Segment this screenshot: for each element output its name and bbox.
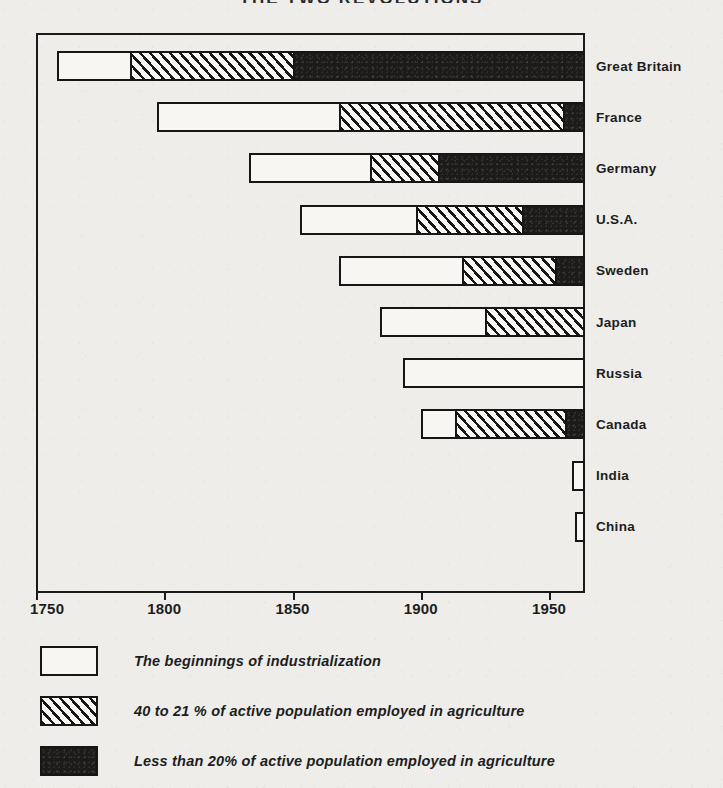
bar-china [575,512,585,542]
country-label: France [596,102,642,132]
country-label: Great Britain [596,51,682,81]
bar-segment-beginnings [405,360,583,386]
legend-swatch-white [40,646,98,676]
bar-segment-less-than-20-pct [565,411,583,437]
bar-france [157,102,585,132]
bar-russia [403,358,585,388]
country-label: U.S.A. [596,205,638,235]
country-label: India [596,461,629,491]
bar-sweden [339,256,585,286]
bar-segment-40-to-21-pct [485,309,583,335]
axis-tick [549,593,551,600]
legend-swatch-black [40,746,98,776]
bar-india [572,461,585,491]
bar-segment-40-to-21-pct [339,104,563,130]
bar-segment-less-than-20-pct [293,53,583,79]
bar-segment-40-to-21-pct [370,155,438,181]
bar-segment-beginnings [577,514,583,540]
bar-segment-beginnings [159,104,339,130]
bar-segment-beginnings [341,258,462,284]
bar-japan [380,307,585,337]
bar-germany [249,153,585,183]
bar-segment-40-to-21-pct [416,207,522,233]
bar-segment-beginnings [574,463,583,489]
bar-segment-40-to-21-pct [462,258,555,284]
axis-tick [421,593,423,600]
bar-segment-beginnings [59,53,130,79]
country-label: Canada [596,409,647,439]
legend-label: 40 to 21 % of active population employed… [134,703,525,719]
chart-legend: The beginnings of industrialization40 to… [36,636,676,786]
axis-tick-label: 1850 [275,600,309,617]
bar-u-s-a [300,205,585,235]
legend-item: Less than 20% of active population emplo… [36,736,676,786]
x-axis: 17501800185019001950 [36,593,585,623]
bar-segment-beginnings [382,309,485,335]
bar-segment-beginnings [423,411,456,437]
bar-segment-beginnings [302,207,416,233]
country-label: China [596,512,635,542]
bar-great-britain [57,51,585,81]
axis-tick [293,593,295,600]
axis-tick-label: 1800 [147,600,181,617]
axis-tick [36,593,38,600]
legend-item: 40 to 21 % of active population employed… [36,686,676,736]
country-label: Germany [596,153,657,183]
country-label: Japan [596,307,637,337]
axis-tick-label: 1750 [30,600,64,617]
bar-segment-less-than-20-pct [438,155,582,181]
bar-segment-less-than-20-pct [563,104,583,130]
country-label: Sweden [596,256,649,286]
bar-segment-40-to-21-pct [130,53,293,79]
bar-segment-less-than-20-pct [522,207,583,233]
country-label: Russia [596,358,642,388]
legend-item: The beginnings of industrialization [36,636,676,686]
axis-tick-label: 1950 [532,600,566,617]
axis-tick [164,593,166,600]
bar-segment-40-to-21-pct [455,411,565,437]
legend-label: The beginnings of industrialization [134,653,381,669]
bar-segment-less-than-20-pct [555,258,583,284]
chart-title: THE TWO REVOLUTIONS [0,0,723,3]
bar-segment-beginnings [251,155,370,181]
axis-tick-label: 1900 [404,600,438,617]
legend-swatch-hatch [40,696,98,726]
legend-label: Less than 20% of active population emplo… [134,753,555,769]
bar-canada [421,409,585,439]
